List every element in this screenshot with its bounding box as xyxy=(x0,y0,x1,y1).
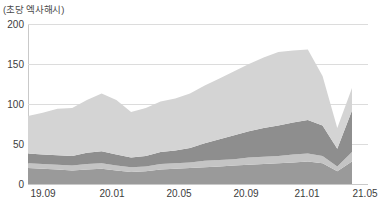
x-tick-6: 21.05 xyxy=(352,188,377,199)
x-tick-5: 21.01 xyxy=(294,188,319,199)
x-tick-2: 20.01 xyxy=(99,188,124,199)
plot-area xyxy=(28,24,368,184)
x-axis-tick-labels: 19.09 20.01 20.05 20.09 21.01 21.05 xyxy=(0,188,374,204)
x-axis-line xyxy=(28,184,368,185)
x-tick-4: 20.09 xyxy=(233,188,258,199)
y-tick-50: 50 xyxy=(13,139,24,150)
stacked-area-series xyxy=(28,24,368,184)
y-axis-tick-labels: 200 150 100 50 0 xyxy=(0,0,24,207)
y-tick-200: 200 xyxy=(7,19,24,30)
x-tick-3: 20.05 xyxy=(166,188,191,199)
area-series-svg xyxy=(28,24,368,184)
y-tick-100: 100 xyxy=(7,99,24,110)
y-tick-150: 150 xyxy=(7,59,24,70)
x-tick-1: 19.09 xyxy=(30,188,55,199)
